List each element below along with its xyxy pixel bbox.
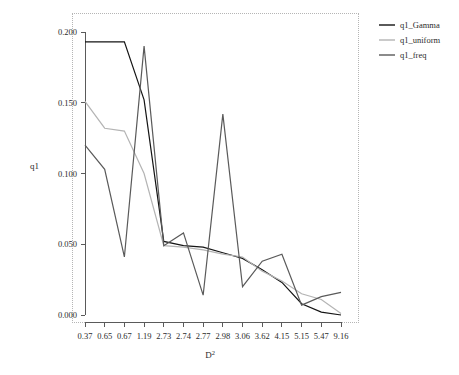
- x-tick-label: 2.73: [156, 331, 171, 341]
- x-tick-label: 5.15: [294, 331, 309, 341]
- x-tick-label: 0.65: [97, 331, 112, 341]
- x-axis-title-superscript: 2: [212, 349, 215, 356]
- x-tick-label: 2.74: [176, 331, 192, 341]
- y-tick-label: 0.150: [58, 98, 77, 108]
- x-tick-label: 2.98: [215, 331, 230, 341]
- x-tick-label: 9.16: [334, 331, 349, 341]
- y-axis: 0.0000.0500.1000.1500.200: [58, 27, 85, 320]
- x-tick-label: 1.19: [137, 331, 152, 341]
- x-tick-label: 3.62: [255, 331, 270, 341]
- chart-legend[interactable]: q1_Gammaq1_uniformq1_freq: [379, 20, 441, 60]
- legend-label-q1_uniform[interactable]: q1_uniform: [400, 35, 441, 45]
- y-tick-label: 0.100: [58, 169, 77, 179]
- x-tick-label: 0.37: [78, 331, 93, 341]
- x-tick-label: 0.67: [117, 331, 132, 341]
- x-axis: 0.370.650.671.192.732.742.772.983.063.62…: [78, 322, 349, 341]
- y-tick-label: 0.200: [58, 27, 77, 37]
- x-tick-label: 2.77: [196, 331, 211, 341]
- x-tick-label: 4.15: [274, 331, 289, 341]
- x-tick-label: 5.47: [314, 331, 329, 341]
- x-tick-label: 3.06: [235, 331, 250, 341]
- data-series-group: [85, 42, 341, 315]
- legend-label-q1_freq[interactable]: q1_freq: [400, 50, 427, 60]
- x-axis-title: D2: [205, 349, 215, 361]
- chart-canvas: 0.0000.0500.1000.1500.200 0.370.650.671.…: [0, 0, 459, 375]
- y-axis-title: q1: [30, 161, 39, 171]
- y-tick-label: 0.050: [58, 239, 77, 249]
- legend-label-q1_Gamma[interactable]: q1_Gamma: [400, 20, 440, 30]
- series-line-q1_Gamma: [85, 42, 341, 315]
- series-line-q1_freq: [85, 46, 341, 305]
- chart-screenshot: 0.0000.0500.1000.1500.200 0.370.650.671.…: [0, 0, 459, 375]
- y-tick-label: 0.000: [58, 310, 77, 320]
